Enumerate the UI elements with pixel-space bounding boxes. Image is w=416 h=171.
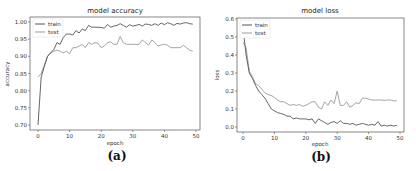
y-tick-label: 0.70 xyxy=(15,122,28,128)
y-tick-label: 0.5 xyxy=(225,34,234,40)
y-tick-label: 0.1 xyxy=(225,106,234,112)
series-test-line xyxy=(243,42,397,109)
x-tick-label: 20 xyxy=(98,133,105,139)
x-tick-label: 30 xyxy=(334,135,341,141)
x-axis-ticks: 01020304050 xyxy=(36,130,200,139)
x-tick-label: 30 xyxy=(129,133,136,139)
accuracy-chart: model accuracy 0.700.750.800.850.900.951… xyxy=(4,7,200,163)
figure: model accuracy 0.700.750.800.850.900.951… xyxy=(0,0,416,171)
caption-a: (a) xyxy=(107,149,126,163)
y-tick-label: 0.4 xyxy=(225,52,234,58)
x-tick-label: 10 xyxy=(66,133,73,139)
x-axis-label: epoch xyxy=(107,140,124,147)
y-tick-label: 0.80 xyxy=(15,88,28,94)
x-tick-label: 10 xyxy=(271,135,278,141)
chart-title: model loss xyxy=(301,7,339,15)
caption-b: (b) xyxy=(311,150,331,164)
chart-title: model accuracy xyxy=(87,7,143,15)
x-tick-label: 50 xyxy=(397,135,404,141)
y-axis-label: accuracy xyxy=(4,61,11,87)
x-tick-label: 40 xyxy=(365,135,372,141)
y-axis-label: loss xyxy=(214,70,220,81)
x-axis-label: epoch xyxy=(312,141,329,148)
y-tick-label: 0.6 xyxy=(225,16,234,22)
y-tick-label: 0.3 xyxy=(225,70,234,76)
x-tick-label: 20 xyxy=(302,135,309,141)
y-axis-ticks: 0.700.750.800.850.900.951.00 xyxy=(15,19,30,128)
legend-label-test: test xyxy=(255,30,266,36)
x-axis-ticks: 01020304050 xyxy=(241,132,404,141)
x-tick-label: 0 xyxy=(36,133,40,139)
legend: train test xyxy=(240,20,270,38)
series-train-line xyxy=(38,23,193,125)
series-lines xyxy=(38,23,193,125)
x-tick-label: 0 xyxy=(241,135,245,141)
y-tick-label: 1.00 xyxy=(15,19,28,25)
legend-label-train: train xyxy=(48,21,61,27)
legend: train test xyxy=(33,19,63,37)
legend-label-train: train xyxy=(255,22,268,28)
series-lines xyxy=(243,28,397,126)
y-axis-ticks: 0.00.10.20.30.40.50.6 xyxy=(225,16,237,130)
loss-chart: model loss 0.00.10.20.30.40.50.6 0102030… xyxy=(214,7,404,164)
y-tick-label: 0.95 xyxy=(15,36,28,42)
x-tick-label: 50 xyxy=(193,133,200,139)
legend-label-test: test xyxy=(48,29,59,35)
x-tick-label: 40 xyxy=(161,133,168,139)
y-tick-label: 0.85 xyxy=(15,71,28,77)
y-tick-label: 0.0 xyxy=(225,124,234,130)
series-train-line xyxy=(243,28,397,126)
y-tick-label: 0.75 xyxy=(15,105,28,111)
y-tick-label: 0.2 xyxy=(225,88,234,94)
y-tick-label: 0.90 xyxy=(15,53,28,59)
